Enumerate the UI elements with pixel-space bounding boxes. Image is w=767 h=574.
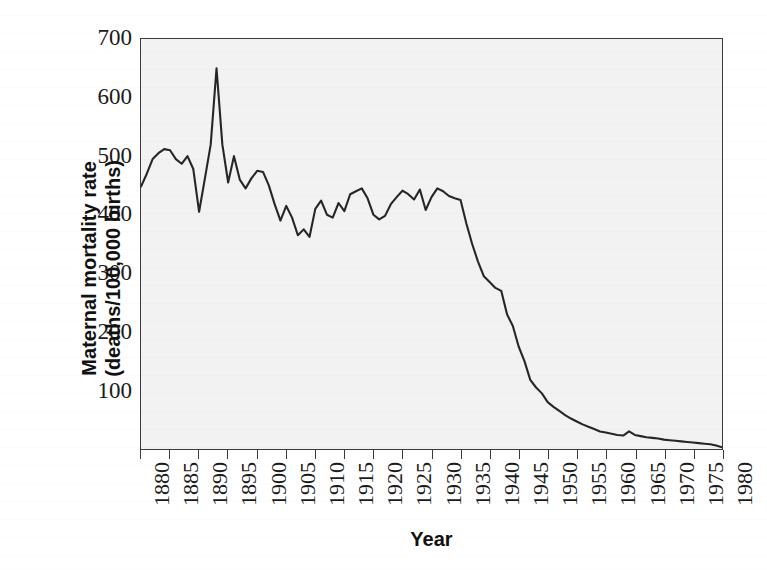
data-line-plot [141,39,722,449]
x-tick-label: 1880 [149,462,175,506]
x-tick-label: 1920 [382,462,408,506]
y-axis-title: Maternal mortality rate (deaths/100,000 … [77,103,126,433]
x-tick-label: 1960 [615,462,641,506]
x-tick-label: 1965 [645,462,671,506]
x-tick-label: 1980 [732,462,758,506]
x-tick-mark [548,450,549,459]
x-tick-label: 1950 [557,462,583,506]
x-tick-label: 1975 [703,462,729,506]
x-tick-mark [257,450,258,459]
x-tick-mark [373,450,374,459]
y-axis-title-line2: (deaths/100,000 births) [101,103,125,433]
plot-area [140,38,723,450]
x-axis-title: Year [140,528,723,551]
x-tick-mark [606,450,607,459]
x-tick-mark [198,450,199,459]
data-series-line [141,68,722,447]
x-tick-label: 1970 [674,462,700,506]
x-tick-label: 1905 [295,462,321,506]
x-tick-mark [227,450,228,459]
x-tick-label: 1935 [470,462,496,506]
x-tick-label: 1925 [411,462,437,506]
x-tick-label: 1930 [441,462,467,506]
y-axis-title-line1: Maternal mortality rate [77,103,101,433]
x-tick-mark [577,450,578,459]
x-tick-label: 1890 [207,462,233,506]
x-tick-label: 1885 [178,462,204,506]
x-tick-label: 1915 [353,462,379,506]
x-tick-mark [490,450,491,459]
x-tick-mark [461,450,462,459]
x-tick-label: 1955 [586,462,612,506]
x-tick-mark [694,450,695,459]
x-tick-mark [665,450,666,459]
x-tick-mark [402,450,403,459]
x-tick-mark [636,450,637,459]
x-tick-mark [169,450,170,459]
maternal-mortality-chart-figure: 700 600 500 400 300 200 100 Maternal mor… [0,0,767,574]
x-tick-label: 1900 [266,462,292,506]
x-tick-mark [723,450,724,459]
x-tick-mark [315,450,316,459]
x-tick-label: 1895 [236,462,262,506]
x-tick-mark [344,450,345,459]
x-tick-mark [432,450,433,459]
x-tick-mark [519,450,520,459]
y-tick-label: 700 [72,26,132,49]
x-tick-mark [140,450,141,459]
x-tick-label: 1910 [324,462,350,506]
x-tick-mark [286,450,287,459]
x-tick-label: 1940 [499,462,525,506]
x-tick-label: 1945 [528,462,554,506]
